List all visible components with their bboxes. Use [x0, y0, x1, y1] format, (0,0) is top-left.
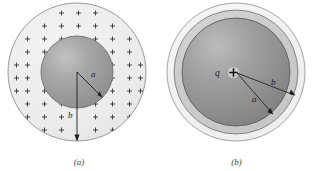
- figure-page: a b (a): [0, 0, 315, 171]
- figure-panel-a: a b (a): [0, 0, 158, 171]
- caption-b: (b): [158, 157, 315, 167]
- radius-a-label: a: [252, 94, 257, 104]
- radius-b-label: b: [271, 77, 276, 87]
- radius-a-label: a: [91, 69, 96, 79]
- charge-plus-icon: [228, 67, 239, 78]
- figure-b-canvas: q b a: [158, 0, 315, 150]
- figure-panel-b: q b a (b): [158, 0, 315, 171]
- charge-symbol-q: q: [215, 68, 220, 78]
- radius-b-label: b: [68, 110, 73, 120]
- caption-a: (a): [0, 157, 158, 167]
- figure-a-canvas: a b: [0, 0, 158, 150]
